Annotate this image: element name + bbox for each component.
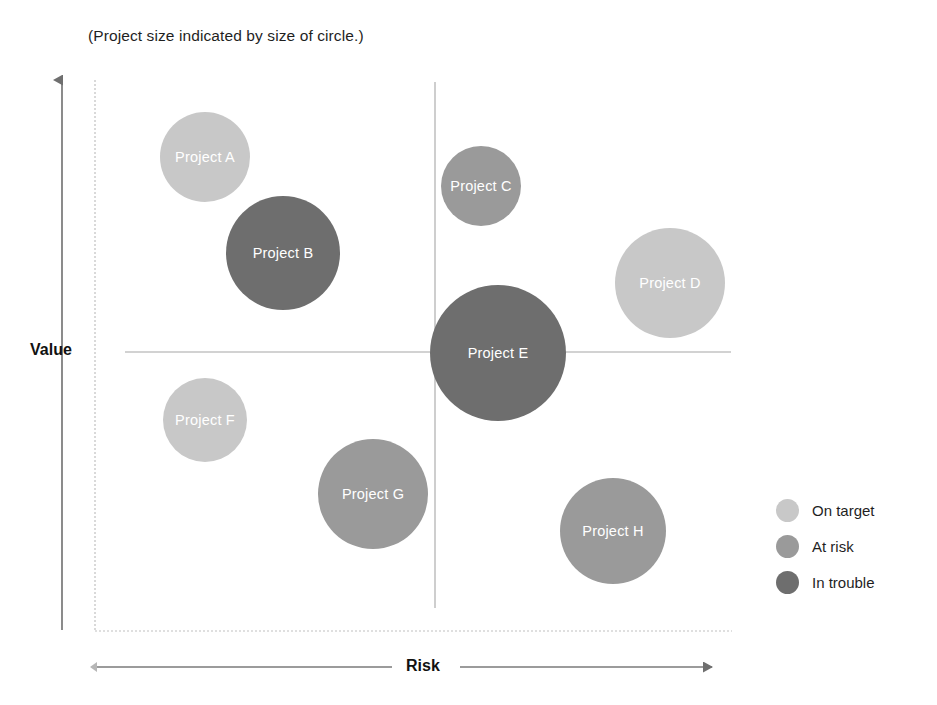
y-axis-label: Value xyxy=(30,341,72,359)
bubble-project-a[interactable]: Project A xyxy=(160,112,250,202)
bubble-label: Project C xyxy=(450,178,511,194)
legend-item-in-trouble[interactable]: In trouble xyxy=(776,564,926,600)
x-axis-label: Risk xyxy=(406,657,440,675)
legend-item-on-target[interactable]: On target xyxy=(776,492,926,528)
bubble-project-e[interactable]: Project E xyxy=(430,285,566,421)
risk-axis-left-cap xyxy=(90,662,97,672)
bubble-label: Project H xyxy=(582,523,643,539)
chart-legend: On targetAt riskIn trouble xyxy=(776,492,926,600)
legend-swatch-icon xyxy=(776,499,799,522)
bubble-label: Project E xyxy=(468,345,529,361)
bubble-label: Project D xyxy=(639,275,700,291)
bubble-project-g[interactable]: Project G xyxy=(318,439,428,549)
bubble-chart-canvas: (Project size indicated by size of circl… xyxy=(0,0,937,705)
bubble-label: Project A xyxy=(175,149,235,165)
legend-item-label: On target xyxy=(812,502,875,519)
legend-swatch-icon xyxy=(776,535,799,558)
legend-swatch-icon xyxy=(776,571,799,594)
bubble-project-b[interactable]: Project B xyxy=(226,196,340,310)
legend-item-label: In trouble xyxy=(812,574,875,591)
bubble-label: Project G xyxy=(342,486,404,502)
bubble-project-c[interactable]: Project C xyxy=(441,146,521,226)
bubble-project-d[interactable]: Project D xyxy=(615,228,725,338)
legend-item-label: At risk xyxy=(812,538,854,555)
bubble-label: Project B xyxy=(253,245,314,261)
legend-item-at-risk[interactable]: At risk xyxy=(776,528,926,564)
bubble-project-f[interactable]: Project F xyxy=(163,378,247,462)
bubble-project-h[interactable]: Project H xyxy=(560,478,666,584)
bubble-label: Project F xyxy=(175,412,235,428)
